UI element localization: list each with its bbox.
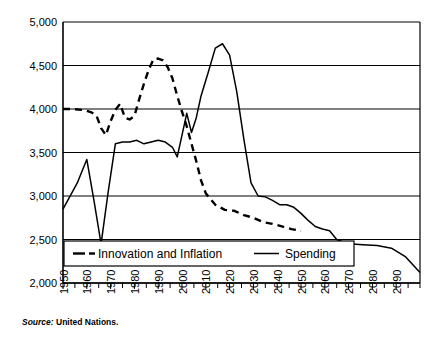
x-axis-tick-label: 2000 bbox=[177, 270, 189, 294]
x-axis-tick-label: 2070 bbox=[343, 270, 355, 294]
x-axis-tick-label: 2050 bbox=[296, 270, 308, 294]
x-axis-tick-label: 1970 bbox=[105, 270, 117, 294]
y-axis-tick-label: 2,500 bbox=[29, 234, 57, 246]
x-axis-tick-label: 2020 bbox=[224, 270, 236, 294]
data-series bbox=[63, 44, 420, 273]
y-axis-tick-label: 3,000 bbox=[29, 190, 57, 202]
x-axis-tick-label: 1990 bbox=[153, 270, 165, 294]
series-line bbox=[63, 44, 420, 273]
x-axis-tick-labels: 1950196019701980199020002010202020302040… bbox=[58, 270, 403, 294]
x-axis-tick-label: 2010 bbox=[200, 270, 212, 294]
y-axis-tick-label: 3,500 bbox=[29, 147, 57, 159]
x-axis-tick-label: 2030 bbox=[248, 270, 260, 294]
x-axis-tick-label: 2040 bbox=[272, 270, 284, 294]
chart-legend: Innovation and InflationSpending bbox=[64, 241, 354, 266]
x-axis-tick-label: 1980 bbox=[129, 270, 141, 294]
x-axis-tick-label: 1960 bbox=[81, 270, 93, 294]
line-chart: 5,0004,5004,0003,5003,0002,5002,000 1950… bbox=[0, 0, 441, 341]
series-line bbox=[63, 59, 301, 231]
legend-label-spending: Spending bbox=[285, 247, 336, 261]
y-axis-tick-label: 4,000 bbox=[29, 103, 57, 115]
legend-label-innovation-and-inflation: Innovation and Inflation bbox=[98, 247, 222, 261]
source-text: United Nations. bbox=[56, 317, 118, 327]
y-axis-tick-label: 5,000 bbox=[29, 16, 57, 28]
x-axis-tick-label: 2080 bbox=[367, 270, 379, 294]
source-label: Source: bbox=[22, 317, 54, 327]
source-note: Source: United Nations. bbox=[22, 317, 118, 327]
y-axis-tick-label: 4,500 bbox=[29, 60, 57, 72]
x-axis-tick-label: 2090 bbox=[391, 270, 403, 294]
y-axis-tick-labels: 5,0004,5004,0003,5003,0002,5002,000 bbox=[29, 16, 57, 289]
chart-figure: 5,0004,5004,0003,5003,0002,5002,000 1950… bbox=[0, 0, 441, 341]
x-axis-tick-label: 2060 bbox=[319, 270, 331, 294]
y-axis-tick-label: 2,000 bbox=[29, 277, 57, 289]
